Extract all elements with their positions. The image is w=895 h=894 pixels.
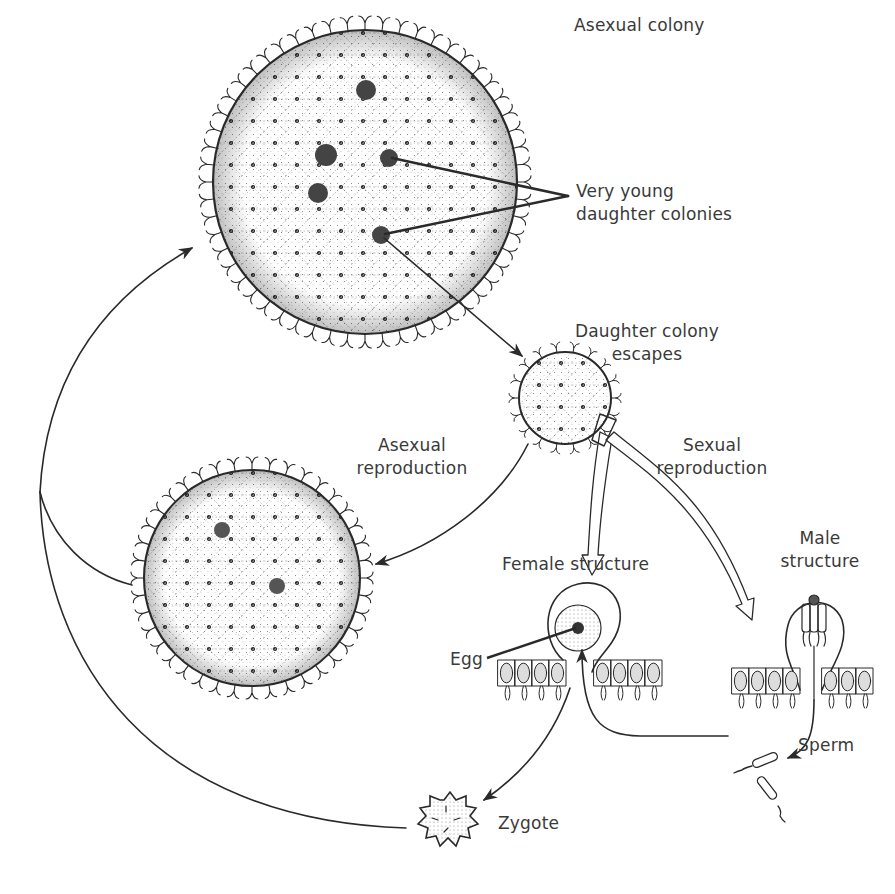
label-daughter-colony: Daughter colony [572,320,722,342]
label-sperm: Sperm [798,734,854,756]
label-sexual: Sexual [652,434,772,456]
label-daughter-colonies: daughter colonies [576,203,732,225]
label-asexual-colony: Asexual colony [574,14,705,36]
label-asexual: Asexual [352,434,472,456]
second-asexual-colony [131,457,373,699]
label-structure: structure [770,550,870,572]
zygote [418,792,478,846]
label-reproduction-asexual: reproduction [352,457,472,479]
arrow-to-zygote [484,688,570,800]
label-zygote: Zygote [498,812,559,834]
female-structure [487,583,662,700]
label-reproduction-sexual: reproduction [652,457,772,479]
sperm-cells [734,751,785,822]
label-very-young: Very young [576,180,674,202]
label-female-structure: Female structure [502,553,649,575]
asexual-colony [199,16,531,348]
label-egg: Egg [450,648,483,670]
label-escapes: escapes [572,343,722,365]
label-male: Male [780,527,860,549]
